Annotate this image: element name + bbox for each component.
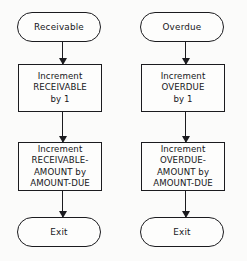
terminator-receivable-exit-label: Exit (50, 227, 67, 237)
process-increment-receivable: Increment RECEIVABLE by 1 (18, 64, 102, 112)
terminator-overdue-exit-label: Exit (173, 227, 190, 237)
process-text-line: AMOUNT by (144, 167, 222, 178)
flow-column-overdue: Overdue Increment OVERDUE by 1 Increment… (123, 0, 247, 261)
connector-receivable-start-to-box1 (58, 42, 67, 64)
connector-overdue-start-to-box1 (181, 42, 190, 64)
process-text-line: Increment (21, 71, 99, 82)
process-increment-receivable-amount-text: Increment RECEIVABLE- AMOUNT by AMOUNT-D… (19, 144, 101, 190)
connector-receivable-box1-to-box2 (58, 112, 67, 142)
process-text-line: AMOUNT-DUE (21, 178, 99, 189)
process-increment-receivable-text: Increment RECEIVABLE by 1 (19, 71, 101, 105)
process-text-line: Increment (144, 71, 222, 82)
process-text-line: Increment (144, 144, 222, 155)
process-text-line: RECEIVABLE- (21, 155, 99, 166)
process-text-line: OVERDUE- (144, 155, 222, 166)
process-increment-overdue: Increment OVERDUE by 1 (141, 64, 225, 112)
process-increment-overdue-amount-text: Increment OVERDUE- AMOUNT by AMOUNT-DUE (142, 144, 224, 190)
connector-overdue-box1-to-box2 (181, 112, 190, 142)
flow-column-receivable: Receivable Increment RECEIVABLE by 1 Inc… (0, 0, 124, 261)
process-increment-overdue-text: Increment OVERDUE by 1 (142, 71, 224, 105)
terminator-overdue-exit: Exit (140, 217, 224, 247)
process-text-line: by 1 (21, 94, 99, 105)
process-text-line: AMOUNT-DUE (144, 178, 222, 189)
terminator-overdue-start-label: Overdue (163, 22, 202, 32)
process-text-line: RECEIVABLE (21, 82, 99, 93)
process-increment-overdue-amount: Increment OVERDUE- AMOUNT by AMOUNT-DUE (141, 142, 225, 191)
process-text-line: OVERDUE (144, 82, 222, 93)
process-text-line: by 1 (144, 94, 222, 105)
process-text-line: AMOUNT by (21, 167, 99, 178)
terminator-receivable-start-label: Receivable (34, 22, 84, 32)
connector-receivable-box2-to-exit (58, 191, 67, 217)
terminator-receivable-start: Receivable (17, 12, 101, 42)
process-increment-receivable-amount: Increment RECEIVABLE- AMOUNT by AMOUNT-D… (18, 142, 102, 191)
process-text-line: Increment (21, 144, 99, 155)
terminator-overdue-start: Overdue (140, 12, 224, 42)
connector-overdue-box2-to-exit (181, 191, 190, 217)
flowchart-diagram: Receivable Increment RECEIVABLE by 1 Inc… (0, 0, 247, 261)
terminator-receivable-exit: Exit (17, 217, 101, 247)
